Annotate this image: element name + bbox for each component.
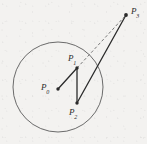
point-label-p1: P1 xyxy=(68,54,77,65)
geometry-svg xyxy=(0,0,147,144)
point-p2-dot xyxy=(75,101,78,104)
point-p0-dot xyxy=(56,87,59,90)
point-p3-dot xyxy=(124,13,128,17)
point-label-p2: P2 xyxy=(69,108,78,119)
segment-p2-p3 xyxy=(77,15,126,103)
segment-p0-p1 xyxy=(58,68,77,89)
point-label-p0: P0 xyxy=(41,83,50,94)
point-p1-dot xyxy=(75,66,78,69)
point-label-p1-subscript: 1 xyxy=(73,60,76,66)
point-label-p0-subscript: 0 xyxy=(46,89,49,95)
point-label-p2-subscript: 2 xyxy=(74,114,77,120)
boundary-circle xyxy=(13,42,103,132)
point-label-p3-subscript: 3 xyxy=(136,13,139,19)
point-label-p3: P3 xyxy=(131,7,140,18)
figure-canvas: P0 P1 P2 P3 xyxy=(0,0,147,144)
